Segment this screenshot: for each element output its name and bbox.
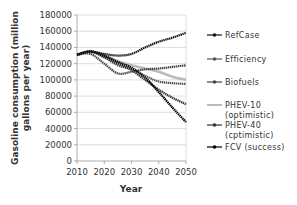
legend-marker-icon <box>213 123 217 127</box>
line-chart: 0200004000060000800001000001200001400001… <box>0 0 297 205</box>
y-tick-label: 100000 <box>40 75 72 85</box>
y-tick-label: 120000 <box>40 59 72 69</box>
legend-label-line2: (optimistic) <box>225 111 274 120</box>
legend-marker-icon <box>213 145 217 149</box>
x-tick-label: 2020 <box>93 167 115 177</box>
legend-label-line2: (cptimistic) <box>225 131 274 140</box>
x-tick-label: 2030 <box>121 167 143 177</box>
gridlines <box>77 15 186 145</box>
x-axis-ticks: 20102020203020402050 <box>66 161 197 177</box>
axes <box>77 15 186 161</box>
legend-label: PHEV-40 <box>225 121 261 130</box>
y-tick-label: 20000 <box>45 140 72 150</box>
series-lines <box>77 33 186 122</box>
legend-marker-icon <box>213 33 217 37</box>
y-tick-label: 60000 <box>45 107 72 117</box>
legend-item: FCV (success) <box>207 143 285 152</box>
legend-label: RefCase <box>225 31 260 40</box>
x-axis-title: Year <box>119 184 143 194</box>
legend-item: PHEV-10(optimistic) <box>207 101 274 120</box>
y-tick-label: 80000 <box>45 91 72 101</box>
legend-label: Efficiency <box>225 55 267 64</box>
legend-marker-icon <box>213 80 217 84</box>
y-tick-label: 140000 <box>40 42 72 52</box>
series-line-refcase <box>77 33 186 56</box>
legend-item: RefCase <box>207 31 260 40</box>
y-tick-label: 40000 <box>45 124 72 134</box>
y-axis-title-line1: Gasoline consumption (million <box>10 11 20 165</box>
series-line-fcv-success <box>77 51 186 122</box>
legend-item: PHEV-40(cptimistic) <box>207 121 274 140</box>
y-axis-ticks: 0200004000060000800001000001200001400001… <box>40 10 77 166</box>
y-tick-label: 180000 <box>40 10 72 20</box>
legend-label: FCV (success) <box>225 143 285 152</box>
x-tick-label: 2050 <box>175 167 197 177</box>
legend-item: Biofuels <box>207 78 259 87</box>
legend-marker-icon <box>213 57 217 61</box>
y-axis-title-line2: gallons per year) <box>21 45 31 131</box>
legend-label: PHEV-10 <box>225 101 261 110</box>
y-axis-title: Gasoline consumption (million gallons pe… <box>10 11 31 165</box>
x-tick-label: 2040 <box>148 167 170 177</box>
legend: RefCaseEfficiencyBiofuelsPHEV-10(optimis… <box>207 31 285 152</box>
y-tick-label: 160000 <box>40 26 72 36</box>
x-tick-label: 2010 <box>66 167 88 177</box>
y-tick-label: 0 <box>67 156 72 166</box>
legend-label: Biofuels <box>225 78 259 87</box>
legend-item: Efficiency <box>207 55 267 64</box>
